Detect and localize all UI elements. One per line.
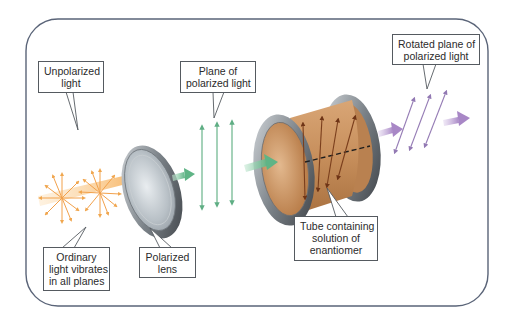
label-ordinary-light: Ordinary light vibrates in all planes (43, 247, 110, 291)
label-polarized-lens: Polarized lens (139, 247, 196, 278)
label-line: Ordinary (49, 251, 104, 263)
label-line: Plane of (186, 65, 250, 77)
label-line: polarized light (186, 77, 250, 89)
label-unpolarized-light: Unpolarized light (38, 61, 104, 93)
label-line: polarized light (398, 50, 474, 62)
label-rotated-plane: Rotated plane of polarized light (392, 34, 480, 65)
label-line: Polarized (145, 251, 190, 263)
label-line: enantiomer (300, 244, 372, 256)
label-line: lens (145, 263, 190, 275)
label-line: light (44, 77, 98, 89)
label-line: light vibrates (49, 263, 104, 275)
label-line: Tube containing (300, 220, 372, 232)
label-tube: Tube containing solution of enantiomer (294, 216, 378, 261)
label-line: solution of (300, 232, 372, 244)
label-plane-polarized-light: Plane of polarized light (180, 61, 256, 93)
label-line: in all planes (49, 275, 104, 287)
label-line: Rotated plane of (398, 38, 474, 50)
label-line: Unpolarized (44, 65, 98, 77)
